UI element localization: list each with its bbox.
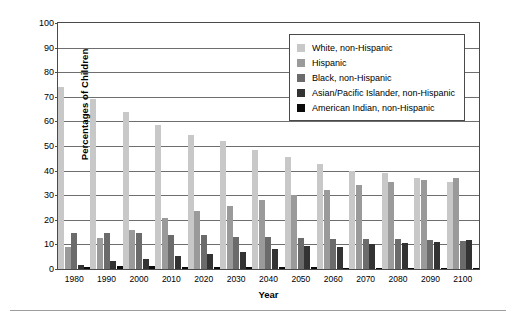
- bar: [58, 87, 64, 269]
- legend-label: White, non-Hispanic: [312, 43, 393, 53]
- bar-group: [220, 23, 252, 269]
- bar: [143, 259, 149, 269]
- bar: [104, 233, 110, 269]
- bar: [363, 239, 369, 269]
- x-tick-label: 2030: [227, 274, 246, 284]
- bar: [395, 239, 401, 269]
- legend-item: Black, non-Hispanic: [297, 70, 455, 85]
- x-tick-label: 2050: [291, 274, 310, 284]
- bar: [175, 256, 181, 269]
- legend-label: Black, non-Hispanic: [312, 73, 392, 83]
- bar: [162, 218, 168, 269]
- x-tick-label: 2020: [194, 274, 213, 284]
- bar: [473, 268, 479, 269]
- legend-swatch-icon: [297, 89, 305, 97]
- bar: [304, 246, 310, 269]
- bar: [194, 211, 200, 269]
- bar: [272, 249, 278, 269]
- bar: [259, 200, 265, 269]
- bar: [136, 233, 142, 269]
- legend-swatch-icon: [297, 59, 305, 67]
- legend-label: Asian/Pacific Islander, non-Hispanic: [312, 88, 455, 98]
- bar: [447, 182, 453, 269]
- chart-legend: White, non-HispanicHispanicBlack, non-Hi…: [289, 34, 465, 121]
- legend-item: Asian/Pacific Islander, non-Hispanic: [297, 85, 455, 100]
- bar: [129, 230, 135, 269]
- x-tick-label: 2040: [259, 274, 278, 284]
- footer-rule: [10, 310, 506, 311]
- x-tick-label: 1990: [97, 274, 116, 284]
- bar: [220, 141, 226, 269]
- bar: [460, 241, 466, 269]
- bar: [233, 237, 239, 269]
- y-tick-label: 0: [49, 264, 54, 274]
- bar: [265, 237, 271, 269]
- legend-label: American Indian, non-Hispanic: [312, 103, 435, 113]
- legend-swatch-icon: [297, 44, 305, 52]
- bar: [168, 235, 174, 269]
- bar: [298, 238, 304, 269]
- bar: [349, 171, 355, 269]
- bar: [291, 195, 297, 269]
- bar: [207, 254, 213, 269]
- y-tick-label: 90: [44, 43, 54, 53]
- legend-swatch-icon: [297, 104, 305, 112]
- bar: [78, 265, 84, 269]
- bar: [240, 252, 246, 269]
- bar: [65, 247, 71, 269]
- y-tick-label: 70: [44, 92, 54, 102]
- x-tick-label: 1980: [65, 274, 84, 284]
- legend-label: Hispanic: [312, 58, 347, 68]
- bar: [434, 242, 440, 269]
- bar: [330, 239, 336, 270]
- bar: [201, 235, 207, 269]
- bar: [382, 173, 388, 269]
- bar: [356, 185, 362, 269]
- bar: [337, 247, 343, 269]
- bar: [466, 240, 472, 269]
- bar: [285, 157, 291, 269]
- bar: [317, 164, 323, 269]
- bar: [369, 244, 375, 269]
- bar-group: [123, 23, 155, 269]
- y-tick-label: 40: [44, 166, 54, 176]
- x-axis-title: Year: [57, 289, 480, 300]
- bar: [421, 180, 427, 269]
- y-tick-label: 10: [44, 239, 54, 249]
- x-tick-label: 2080: [389, 274, 408, 284]
- legend-swatch-icon: [297, 74, 305, 82]
- bar: [110, 261, 116, 269]
- bar-group: [155, 23, 187, 269]
- y-tick-label: 30: [44, 190, 54, 200]
- legend-item: White, non-Hispanic: [297, 40, 455, 55]
- x-tick-label: 2060: [324, 274, 343, 284]
- bar: [414, 178, 420, 269]
- bar: [402, 243, 408, 269]
- y-tick-label: 20: [44, 215, 54, 225]
- y-tick-label: 60: [44, 116, 54, 126]
- bar: [71, 233, 77, 269]
- bar: [97, 238, 103, 269]
- bar: [90, 99, 96, 269]
- x-tick-label: 2090: [421, 274, 440, 284]
- bar: [324, 190, 330, 269]
- bar: [427, 240, 433, 269]
- y-tick-label: 80: [44, 67, 54, 77]
- bar: [453, 178, 459, 270]
- plot-area: 0102030405060708090100 19801990200020102…: [57, 22, 480, 270]
- chart-figure: 0102030405060708090100 19801990200020102…: [0, 0, 516, 322]
- bar: [388, 182, 394, 269]
- legend-item: Hispanic: [297, 55, 455, 70]
- y-tick-label: 50: [44, 141, 54, 151]
- x-tick-label: 2070: [356, 274, 375, 284]
- bar: [123, 112, 129, 269]
- bar: [155, 125, 161, 269]
- bar-group: [90, 23, 122, 269]
- y-tick-mark: [55, 269, 58, 270]
- y-axis-title: Percentages of Children: [79, 35, 90, 175]
- x-tick-label: 2010: [162, 274, 181, 284]
- bar-group: [252, 23, 284, 269]
- bar: [188, 135, 194, 269]
- legend-item: American Indian, non-Hispanic: [297, 100, 455, 115]
- bar-group: [188, 23, 220, 269]
